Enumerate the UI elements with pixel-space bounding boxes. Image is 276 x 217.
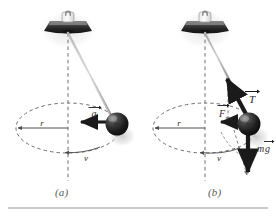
svg-text:m: m bbox=[257, 143, 264, 154]
radius-label-a: r bbox=[40, 118, 44, 128]
svg-text:T: T bbox=[249, 93, 256, 105]
figure-svg: r v a m bbox=[0, 0, 276, 217]
panel-caption-a: (a) bbox=[55, 186, 68, 198]
svg-text:a: a bbox=[92, 108, 97, 119]
acceleration-label-a: a bbox=[89, 106, 102, 119]
tension-label-b: T bbox=[245, 90, 260, 105]
tension-vector-b bbox=[227, 79, 246, 114]
svg-text:res: res bbox=[226, 115, 234, 121]
radius-label-b: r bbox=[177, 118, 181, 128]
velocity-label-a: v bbox=[84, 153, 88, 163]
pendulum-bob-b: m bbox=[238, 113, 261, 136]
velocity-arc-a bbox=[65, 147, 100, 153]
panel-a: r v a m bbox=[16, 10, 136, 181]
panel-b: r v T F res m bbox=[153, 10, 274, 181]
svg-text:m: m bbox=[114, 120, 121, 130]
svg-text:g: g bbox=[265, 143, 270, 154]
svg-text:m: m bbox=[246, 120, 253, 130]
panel-caption-b: (b) bbox=[208, 186, 221, 198]
physics-figure: r v a m bbox=[0, 0, 276, 217]
velocity-label-b: v bbox=[217, 153, 221, 163]
pendulum-bob-a: m bbox=[106, 113, 129, 136]
